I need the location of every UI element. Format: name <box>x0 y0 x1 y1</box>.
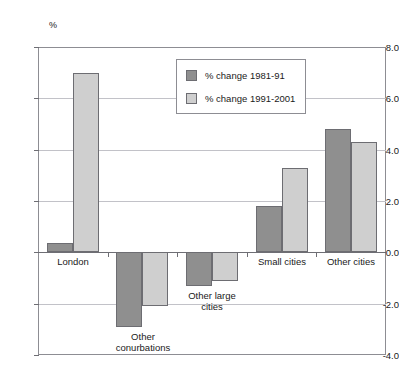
bar <box>325 129 351 252</box>
x-tick-mark-1 <box>108 252 109 257</box>
legend-label-1991-2001: % change 1991-2001 <box>205 93 295 104</box>
bar <box>142 252 168 306</box>
legend-swatch-icon-1981-91 <box>186 70 197 81</box>
legend-swatch-icon-1991-2001 <box>186 93 197 104</box>
bar <box>73 73 99 252</box>
bar <box>186 252 212 286</box>
category-label: Other large cities <box>177 290 247 312</box>
y-tick-label--4.0: -4.0 <box>365 350 399 361</box>
category-label: Small cities <box>247 256 317 267</box>
legend-label-1981-91: % change 1981-91 <box>205 70 285 81</box>
bar <box>256 206 282 252</box>
y-tick-label--2.0: -2.0 <box>365 299 399 310</box>
bar <box>47 243 73 252</box>
bar <box>116 252 142 327</box>
category-label: London <box>38 256 108 267</box>
y-tick-mark-6.0 <box>34 98 39 99</box>
y-tick-label-8.0: 8.0 <box>365 42 399 53</box>
x-tick-mark-2 <box>177 252 178 257</box>
y-tick-mark-8.0 <box>34 47 39 48</box>
y-axis-unit-label: % <box>49 20 57 30</box>
y-tick-label-6.0: 6.0 <box>365 93 399 104</box>
category-label: Other cities <box>316 256 386 267</box>
y-tick-mark--2.0 <box>34 304 39 305</box>
bar <box>212 252 238 281</box>
cropped-title-artifact <box>6 0 80 9</box>
y-tick-mark-4.0 <box>34 150 39 151</box>
bar <box>351 142 377 252</box>
bar <box>282 168 308 252</box>
chart-legend: % change 1981-91 % change 1991-2001 <box>176 59 306 114</box>
y-tick-mark-0.0 <box>34 252 39 253</box>
y-tick-mark--4.0 <box>34 355 39 356</box>
y-tick-mark-2.0 <box>34 201 39 202</box>
legend-item-1981-91: % change 1981-91 <box>186 67 296 83</box>
category-label: Other conurbations <box>108 331 178 353</box>
population-change-bar-chart: % 8.06.04.02.00.0-2.0-4.0 LondonOther co… <box>0 0 399 377</box>
legend-item-1991-2001: % change 1991-2001 <box>186 90 296 106</box>
